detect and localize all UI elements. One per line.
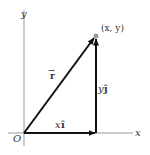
y-component-coef: y bbox=[97, 83, 104, 94]
x-axis-label: x bbox=[135, 127, 141, 138]
x-component-unit: î bbox=[61, 119, 65, 130]
point-label: (x, y) bbox=[101, 23, 124, 33]
origin-label: O bbox=[13, 133, 21, 144]
y-component-unit: ĵ bbox=[103, 83, 108, 94]
r-label: r bbox=[50, 71, 55, 81]
y-axis-label: y bbox=[20, 8, 27, 19]
point-marker bbox=[94, 34, 99, 39]
vector-diagram: y x O (x, y) → r y ĵ x î bbox=[0, 0, 150, 155]
